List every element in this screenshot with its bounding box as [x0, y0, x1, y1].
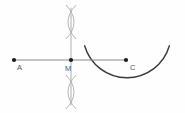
- point-m-marker: [69, 58, 73, 62]
- figure-background: [0, 0, 185, 113]
- point-m-label: M: [65, 64, 71, 73]
- point-c-label: C: [130, 63, 136, 72]
- point-a-marker: [12, 58, 16, 62]
- construction-figure-canvas: A M C: [0, 0, 185, 113]
- geometry-figure: A M C: [0, 0, 185, 113]
- point-c-marker: [124, 58, 128, 62]
- point-a-label: A: [17, 63, 22, 72]
